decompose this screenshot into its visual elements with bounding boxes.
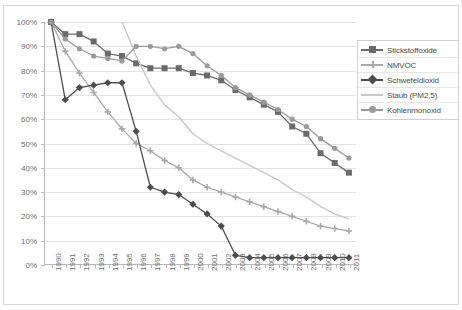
data-point: [246, 199, 252, 205]
legend-label: Kohlenmonoxid: [387, 106, 441, 115]
data-point: [161, 189, 168, 196]
x-axis-label: 2000: [196, 253, 205, 271]
legend-item-1[interactable]: Stickstoffoxide: [358, 43, 458, 58]
x-axis-label: 2002: [224, 253, 233, 271]
x-axis-label: 2006: [281, 253, 290, 271]
x-axis-label: 2003: [238, 253, 247, 271]
data-point: [289, 123, 295, 129]
data-point: [303, 131, 309, 137]
legend-label: Staub (PM2,5): [387, 91, 437, 100]
y-axis-label: 50%: [0, 139, 37, 148]
x-axis-label: 1992: [82, 253, 91, 271]
data-point: [218, 77, 224, 83]
y-axis-label: 60%: [0, 115, 37, 124]
x-axis-label: 2009: [324, 253, 333, 271]
data-point: [261, 203, 267, 209]
data-point: [275, 107, 280, 112]
data-point: [332, 146, 337, 151]
legend-key-icon: [361, 90, 383, 100]
x-axis-label: 2010: [338, 253, 347, 271]
data-point: [219, 73, 224, 78]
data-point: [346, 170, 352, 176]
x-axis-label: 2008: [309, 253, 318, 271]
data-point: [162, 46, 167, 51]
series-layer: [44, 22, 356, 265]
y-axis-label: 100%: [0, 18, 37, 27]
data-point: [148, 44, 153, 49]
x-axis-label: 1991: [68, 253, 77, 271]
data-point: [247, 92, 252, 97]
data-point: [105, 51, 111, 57]
chart-legend: StickstoffoxideNMVOCSchwefeldioxidStaub …: [357, 40, 459, 120]
data-point: [275, 208, 281, 214]
data-point: [233, 85, 238, 90]
legend-item-3[interactable]: Schwefeldioxid: [358, 73, 458, 88]
legend-item-4[interactable]: Staub (PM2,5): [358, 88, 458, 103]
data-point: [346, 228, 352, 234]
data-point: [317, 223, 323, 229]
y-axis-label: 70%: [0, 90, 37, 99]
series-1: [48, 19, 352, 176]
data-point: [91, 38, 97, 44]
y-axis-label: 30%: [0, 188, 37, 197]
y-axis-label: 20%: [0, 212, 37, 221]
y-axis-label: 40%: [0, 163, 37, 172]
data-point: [62, 48, 68, 54]
legend-key-icon: [361, 105, 383, 115]
legend-key-icon: [361, 60, 383, 70]
y-axis-label: 90%: [0, 42, 37, 51]
data-point: [134, 44, 139, 49]
emissions-index-line-chart: 100%90%80%70%60%50%40%30%20%10%0%1990199…: [0, 0, 462, 310]
data-point: [218, 189, 224, 195]
data-point: [90, 82, 97, 89]
data-point: [303, 218, 309, 224]
legend-label: NMVOC: [387, 61, 416, 70]
legend-item-5[interactable]: Kohlenmonoxid: [358, 103, 458, 117]
data-point: [318, 136, 323, 141]
series-line: [51, 22, 349, 173]
data-point: [77, 46, 82, 51]
y-axis-label: 0%: [0, 261, 37, 270]
legend-item-2[interactable]: NMVOC: [358, 58, 458, 73]
data-point: [176, 65, 182, 71]
legend-key-icon: [361, 75, 383, 85]
data-point: [63, 36, 68, 41]
data-point: [104, 79, 111, 86]
data-point: [105, 56, 110, 61]
x-axis-label: 1996: [139, 253, 148, 271]
data-point: [76, 31, 82, 37]
data-point: [91, 53, 96, 58]
data-point: [204, 72, 210, 78]
data-point: [318, 150, 324, 156]
x-axis-label: 1993: [97, 253, 106, 271]
legend-key-icon: [361, 45, 383, 55]
x-axis-label: 1998: [168, 253, 177, 271]
data-point: [332, 225, 338, 231]
x-axis-label: 1999: [182, 253, 191, 271]
data-point: [204, 184, 210, 190]
data-point: [162, 65, 168, 71]
data-point: [189, 201, 196, 208]
data-point: [304, 124, 309, 129]
y-axis-label: 10%: [0, 236, 37, 245]
x-axis-label: 2011: [352, 254, 361, 271]
x-axis-label: 2007: [295, 253, 304, 271]
data-point: [290, 117, 295, 122]
y-axis-tick: [41, 265, 45, 266]
data-point: [133, 128, 140, 135]
y-axis-label: 80%: [0, 66, 37, 75]
x-axis-label: 1997: [153, 253, 162, 271]
data-point: [332, 160, 338, 166]
data-point: [119, 58, 124, 63]
legend-label: Schwefeldioxid: [387, 76, 439, 85]
data-point: [147, 184, 154, 191]
data-point: [204, 63, 209, 68]
data-point: [261, 100, 266, 105]
x-axis-label: 1995: [125, 253, 134, 271]
data-point: [118, 79, 125, 86]
data-point: [175, 191, 182, 198]
data-point: [346, 155, 351, 160]
data-point: [48, 19, 53, 24]
data-point: [289, 213, 295, 219]
x-axis-label: 1990: [54, 253, 63, 271]
